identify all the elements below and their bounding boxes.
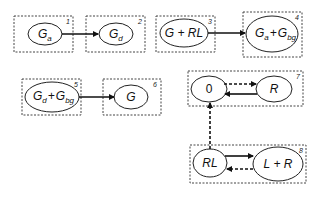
box-number-5: 5 (74, 81, 78, 88)
box-4: 4 Ga+Gbg (243, 12, 302, 57)
box-number-3: 3 (208, 18, 212, 25)
label-g-rl: G + RL (165, 26, 203, 40)
box-number-7: 7 (296, 73, 301, 80)
box-number-4: 4 (295, 14, 299, 21)
box-number-6: 6 (153, 81, 157, 88)
label-l-r: L + R (264, 157, 293, 171)
box-8: 8 RL L + R (190, 145, 306, 183)
box-number-8: 8 (299, 147, 303, 154)
label-r: R (270, 82, 279, 96)
box-3: 3 G + RL (156, 16, 215, 52)
label-0: 0 (206, 82, 213, 96)
label-g: G (126, 90, 135, 104)
box-number-2: 2 (137, 18, 142, 25)
box-7: 7 0 R (188, 71, 303, 106)
reaction-diagram: 1 Ga 2 Gd 3 G + RL 4 Ga+Gbg 5 Gd+Gbg 6 G (0, 0, 319, 197)
box-number-1: 1 (66, 18, 70, 25)
label-rl: RL (202, 156, 217, 170)
box-5: 5 Gd+Gbg (22, 79, 81, 115)
